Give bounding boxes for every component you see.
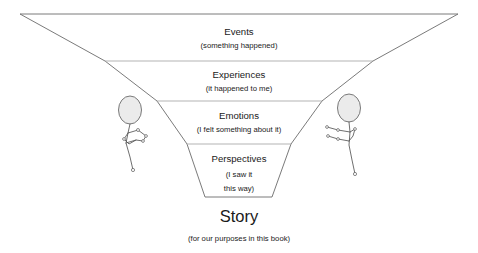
stick-figure-right-joint-b xyxy=(326,126,329,129)
stick-figure-left-spine xyxy=(126,124,133,170)
tier-emotions: Emotions (I felt something about it) xyxy=(197,110,282,134)
tier-perspectives-subtitle-line1: (I saw it xyxy=(226,170,253,179)
outcome-label: Story xyxy=(220,207,259,225)
stick-figure-right-joint-e xyxy=(354,128,357,131)
tier-perspectives: Perspectives (I saw it this way) xyxy=(212,153,267,193)
stick-figure-right-joint-d xyxy=(327,135,330,138)
stick-figure-right-joint-c xyxy=(337,138,340,141)
stick-figure-left-head xyxy=(119,96,142,124)
stick-figure-left-joint-c xyxy=(142,140,145,143)
funnel-right-edge xyxy=(272,14,458,197)
stick-figure-left-joint-a xyxy=(137,129,140,132)
tier-perspectives-subtitle-line2: this way) xyxy=(224,184,255,193)
tier-experiences: Experiences (it happened to me) xyxy=(206,69,273,93)
stick-figure-left-joint-b xyxy=(145,135,148,138)
tier-events-label: Events xyxy=(224,26,254,37)
outcome-story: Story (for our purposes in this book) xyxy=(188,207,291,243)
tier-events: Events (something happened) xyxy=(201,26,278,50)
outcome-subtitle: (for our purposes in this book) xyxy=(188,234,291,243)
tier-emotions-label: Emotions xyxy=(219,110,259,121)
stick-figure-left-torso-detail xyxy=(126,140,143,143)
stick-figure-left-joint-d xyxy=(123,138,126,141)
tier-experiences-label: Experiences xyxy=(213,69,266,80)
stick-figure-right xyxy=(326,94,361,176)
tier-events-subtitle: (something happened) xyxy=(201,41,278,50)
stick-figure-right-joint-a xyxy=(337,129,340,132)
funnel-left-edge xyxy=(20,14,205,197)
stick-figure-left xyxy=(119,96,148,172)
stick-figure-right-foot xyxy=(353,172,356,175)
tier-perspectives-label: Perspectives xyxy=(212,153,267,164)
stick-figure-right-head xyxy=(338,94,361,122)
tier-emotions-subtitle: (I felt something about it) xyxy=(197,125,282,134)
tier-experiences-subtitle: (it happened to me) xyxy=(206,84,273,93)
stick-figure-left-foot xyxy=(131,168,134,171)
story-funnel-diagram: Events (something happened) Experiences … xyxy=(0,0,478,253)
